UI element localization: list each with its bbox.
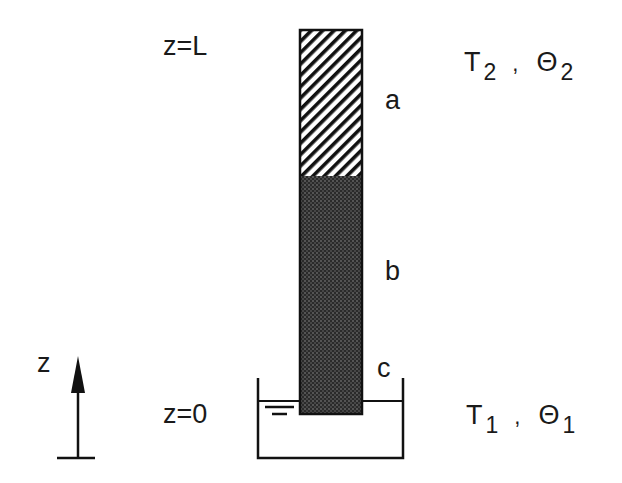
bottom-separator: , bbox=[514, 406, 520, 428]
layer-b-label: b bbox=[385, 258, 400, 285]
bottom-conditions: T1,Θ1 bbox=[466, 402, 575, 437]
z-axis-arrow-icon bbox=[57, 356, 95, 458]
bottom-moisture: Θ bbox=[538, 400, 559, 430]
top-temperature: T bbox=[464, 47, 481, 77]
soil-column bbox=[300, 30, 362, 414]
bottom-boundary-label: z=0 bbox=[163, 401, 207, 428]
layer-a-label: a bbox=[385, 87, 400, 114]
layer-b-dotted bbox=[300, 176, 362, 414]
top-conditions: T2,Θ2 bbox=[464, 49, 573, 84]
top-temperature-subscript: 2 bbox=[484, 59, 497, 85]
bottom-moisture-subscript: 1 bbox=[562, 412, 575, 438]
top-separator: , bbox=[512, 53, 518, 75]
top-boundary-label: z=L bbox=[163, 33, 207, 60]
bottom-temperature-subscript: 1 bbox=[486, 412, 499, 438]
axis-label: z bbox=[37, 350, 51, 377]
bottom-temperature: T bbox=[466, 400, 483, 430]
top-moisture: Θ bbox=[536, 47, 557, 77]
layer-a-hatched bbox=[300, 30, 362, 176]
top-moisture-subscript: 2 bbox=[560, 59, 573, 85]
layer-c-label: c bbox=[377, 355, 391, 382]
